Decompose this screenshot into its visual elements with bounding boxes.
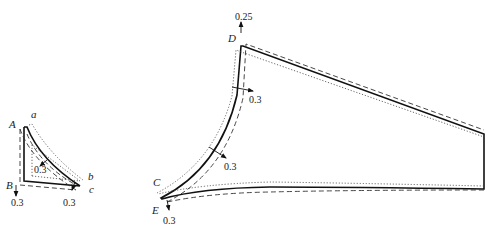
small-section-original [24,127,80,186]
value-inner: 0.3 [34,164,47,175]
value-c: 0.3 [63,197,76,208]
diagram-svg: A a b c B 0.3 0.3 0.3 0.25 D 0.3 0.3 C E… [0,0,492,241]
label-C: C [153,176,161,188]
diagram-canvas: A a b c B 0.3 0.3 0.3 0.25 D 0.3 0.3 C E… [0,0,492,241]
large-section-displaced-dashed [167,44,484,202]
label-a: a [31,108,37,120]
label-E: E [151,204,159,216]
value-D: 0.25 [235,11,253,22]
label-c: c [89,183,94,195]
arrow-web-lower-icon [209,147,226,158]
small-section: A a b c B 0.3 0.3 0.3 [6,108,94,208]
value-web-upper: 0.3 [249,94,262,105]
label-B: B [6,179,13,191]
value-E: 0.3 [163,215,176,226]
large-section: 0.25 D 0.3 0.3 C E 0.3 [151,11,484,226]
large-section-original [161,46,484,199]
label-A: A [8,118,16,130]
label-b: b [88,170,94,182]
label-D: D [227,32,236,44]
value-web-lower: 0.3 [224,161,237,172]
arrow-web-upper-icon [232,87,253,91]
value-B: 0.3 [11,197,24,208]
